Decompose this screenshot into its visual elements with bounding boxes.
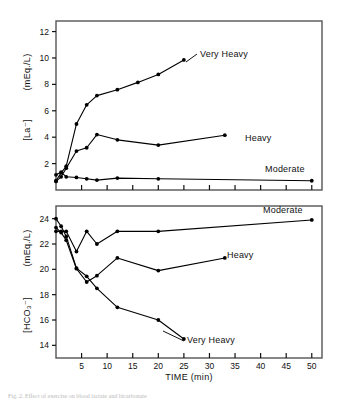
x-axis-label: TIME (min) — [165, 372, 213, 382]
y-tick-label: 2 — [44, 159, 49, 169]
data-point — [156, 318, 160, 322]
data-point — [59, 175, 63, 179]
data-point — [115, 229, 119, 233]
y-tick-label: 12 — [40, 27, 50, 37]
data-point — [54, 217, 58, 221]
data-point — [85, 229, 89, 233]
data-point — [115, 256, 119, 260]
bottom-y-axis-bracket-label: [HCO₃⁻] — [22, 297, 32, 333]
data-point — [54, 173, 58, 177]
top-label-heavy: Heavy — [245, 133, 272, 143]
data-point — [310, 218, 314, 222]
data-point — [95, 274, 99, 278]
x-tick-label: 40 — [256, 361, 266, 371]
bottom-label-very-heavy: Very Heavy — [187, 335, 235, 345]
x-tick-label: 30 — [205, 361, 215, 371]
data-point — [75, 149, 79, 153]
data-point — [115, 305, 119, 309]
x-tick-label: 35 — [230, 361, 240, 371]
data-point — [310, 179, 314, 183]
data-point — [59, 170, 63, 174]
data-point — [75, 176, 79, 180]
data-point — [75, 266, 79, 270]
data-point — [64, 166, 68, 170]
data-point — [156, 177, 160, 181]
figure-two-panel-chart: 24681012 [La⁻] (mEq./L) Very Heavy Heavy… — [0, 0, 340, 405]
data-point — [54, 229, 58, 233]
data-point — [85, 274, 89, 278]
data-point — [85, 103, 89, 107]
y-tick-label: 10 — [40, 53, 50, 63]
top-label-very-heavy: Very Heavy — [200, 49, 248, 59]
data-point — [59, 224, 63, 228]
top-y-axis-units-label: (mEq./L) — [22, 54, 32, 91]
x-tick-label: 10 — [102, 361, 112, 371]
y-tick-label: 16 — [40, 315, 50, 325]
x-tick-label: 15 — [128, 361, 138, 371]
data-point — [136, 80, 140, 84]
x-tick-label: 5 — [79, 361, 84, 371]
data-point — [95, 178, 99, 182]
x-tick-label: 25 — [179, 361, 189, 371]
bottom-y-tick-group: 141618202224 — [40, 214, 56, 351]
top-label-moderate: Moderate — [265, 164, 305, 174]
x-tick-label: 50 — [307, 361, 317, 371]
y-tick-label: 8 — [44, 79, 49, 89]
bottom-panel: 141618202224 5101520253035404550 [HCO₃⁻]… — [22, 205, 322, 382]
figure-caption: Fig. 2. Effect of exercise on blood lact… — [8, 392, 332, 400]
data-point — [156, 269, 160, 273]
data-point — [85, 177, 89, 181]
top-y-axis-bracket-label: [La⁻] — [22, 119, 32, 141]
y-tick-label: 24 — [40, 214, 50, 224]
top-panel: 24681012 [La⁻] (mEq./L) Very Heavy Heavy… — [22, 21, 322, 190]
data-point — [75, 122, 79, 126]
data-point — [59, 231, 63, 235]
data-point — [75, 250, 79, 254]
data-point — [223, 133, 227, 137]
data-point — [115, 138, 119, 142]
data-point — [156, 73, 160, 77]
data-point — [115, 88, 119, 92]
y-tick-label: 22 — [40, 239, 50, 249]
y-tick-label: 14 — [40, 340, 50, 350]
y-tick-label: 20 — [40, 264, 50, 274]
x-tick-label: 20 — [154, 361, 164, 371]
data-point — [64, 175, 68, 179]
bottom-label-heavy: Heavy — [227, 250, 254, 260]
data-point — [64, 235, 68, 239]
data-point — [156, 229, 160, 233]
data-point — [182, 58, 186, 62]
data-point — [85, 280, 89, 284]
data-point — [156, 143, 160, 147]
bottom-y-axis-units-label: (mEq./L) — [22, 230, 32, 267]
y-tick-label: 4 — [44, 132, 49, 142]
data-point — [95, 286, 99, 290]
bottom-label-moderate: Moderate — [263, 205, 303, 215]
data-point — [54, 180, 58, 184]
data-point — [95, 94, 99, 98]
data-point — [95, 242, 99, 246]
data-point — [85, 146, 89, 150]
data-point — [115, 176, 119, 180]
data-point — [54, 226, 58, 230]
y-tick-label: 6 — [44, 106, 49, 116]
data-point — [95, 133, 99, 137]
top-y-tick-group: 24681012 — [40, 27, 56, 169]
y-tick-label: 18 — [40, 290, 50, 300]
x-tick-label: 45 — [281, 361, 291, 371]
